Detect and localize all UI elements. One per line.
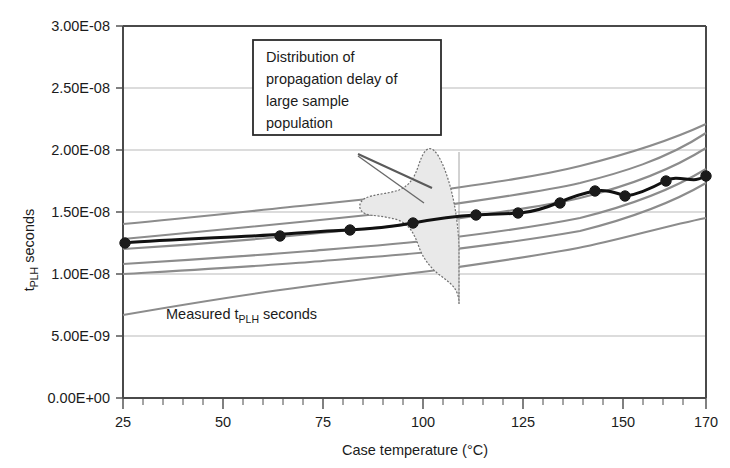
y-tick-label-4: 2.00E-08	[51, 142, 110, 158]
y-tick-label-6: 3.00E-08	[51, 18, 110, 34]
data-point-marker	[408, 218, 418, 228]
y-tick-label-5: 2.50E-08	[51, 80, 110, 96]
measured-label-base: Measured t	[166, 306, 239, 322]
x-tick-label-6: 170	[694, 414, 718, 430]
data-point-marker	[275, 231, 285, 241]
x-tick-label-5: 150	[611, 414, 635, 430]
chart-figure: 3.00E-08 2.50E-08 2.00E-08 1.50E-08 1.00…	[0, 0, 730, 468]
x-tick-label-1: 50	[215, 414, 231, 430]
x-tick-label-4: 125	[511, 414, 535, 430]
measured-label-tail: seconds	[259, 306, 317, 322]
y-axis-title-subscript: PLH	[28, 267, 40, 287]
data-point-marker	[620, 191, 630, 201]
y-tick-label-0: 0.00E+00	[48, 390, 111, 406]
callout-line-1: propagation delay of	[266, 71, 398, 87]
x-tick-label-2: 75	[315, 414, 331, 430]
y-tick-label-1: 5.00E-09	[51, 328, 110, 344]
data-point-marker	[590, 186, 600, 196]
chart-svg: 3.00E-08 2.50E-08 2.00E-08 1.50E-08 1.00…	[0, 0, 730, 468]
data-point-marker	[701, 171, 711, 181]
distribution-callout: Distribution of propagation delay of lar…	[253, 40, 441, 135]
data-point-marker	[471, 210, 481, 220]
data-point-marker	[513, 208, 523, 218]
data-point-marker	[661, 176, 671, 186]
data-point-marker	[120, 238, 130, 248]
y-tick-label-3: 1.50E-08	[51, 204, 110, 220]
y-tick-label-2: 1.00E-08	[51, 266, 110, 282]
callout-line-2: large sample	[266, 93, 349, 109]
x-axis-title: Case temperature (°C)	[342, 442, 488, 458]
x-tick-label-3: 100	[411, 414, 435, 430]
callout-line-3: population	[266, 115, 333, 131]
y-axis-title-tail: seconds	[21, 209, 37, 267]
data-point-marker	[555, 198, 565, 208]
x-tick-label-0: 25	[115, 414, 131, 430]
callout-line-0: Distribution of	[266, 49, 356, 65]
measured-label-subscript: PLH	[239, 313, 259, 325]
data-point-marker	[345, 225, 355, 235]
